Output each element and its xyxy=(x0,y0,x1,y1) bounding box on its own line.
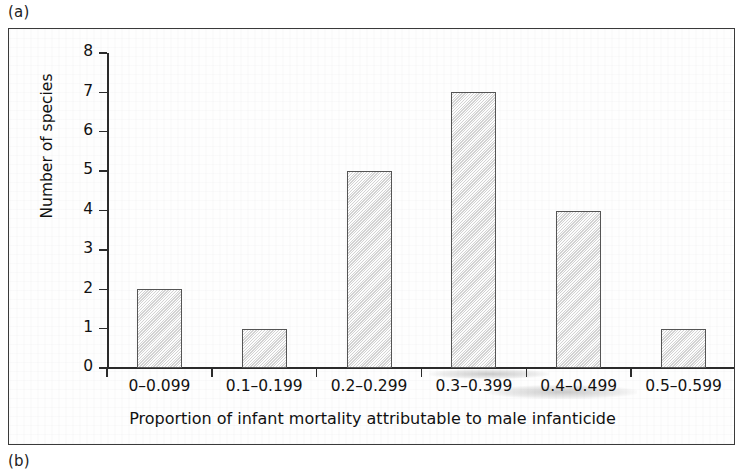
bar-5 xyxy=(661,329,706,368)
y-tick-label: 5 xyxy=(83,160,93,178)
y-tick-label: 8 xyxy=(83,42,93,60)
bar-1 xyxy=(242,329,287,368)
bar-4 xyxy=(556,211,601,369)
y-tick-7: 7 xyxy=(99,92,107,93)
figure-panel-a: Number of species 012345678 0–0.0990.1–0… xyxy=(8,28,735,445)
x-axis-title: Proportion of infant mortality attributa… xyxy=(9,409,735,428)
x-tick-0 xyxy=(106,368,107,377)
y-tick-6: 6 xyxy=(99,131,107,132)
y-tick-label: 2 xyxy=(83,279,93,297)
y-tick-4: 4 xyxy=(99,210,107,211)
x-tick-5 xyxy=(630,368,631,377)
y-tick-2: 2 xyxy=(99,289,107,290)
y-tick-5: 5 xyxy=(99,170,107,171)
bar-0 xyxy=(137,289,182,368)
x-tick-label-1: 0.1–0.199 xyxy=(212,377,317,395)
x-tick-label-2: 0.2–0.299 xyxy=(317,377,422,395)
y-axis-title: Number of species xyxy=(38,46,56,246)
bar-2 xyxy=(347,171,392,368)
x-tick-3 xyxy=(421,368,422,377)
y-tick-8: 8 xyxy=(99,52,107,53)
y-tick-label: 7 xyxy=(83,82,93,100)
x-tick-label-4: 0.4–0.499 xyxy=(526,377,631,395)
plot-area: 012345678 xyxy=(107,53,735,368)
y-tick-label: 6 xyxy=(83,121,93,139)
y-tick-1: 1 xyxy=(99,328,107,329)
bar-3 xyxy=(451,92,496,368)
x-tick-label-5: 0.5–0.599 xyxy=(631,377,735,395)
y-tick-label: 4 xyxy=(83,200,93,218)
y-tick-label: 1 xyxy=(83,318,93,336)
y-tick-label: 3 xyxy=(83,239,93,257)
panel-label-b: (b) xyxy=(8,452,30,470)
x-tick-label-3: 0.3–0.399 xyxy=(422,377,527,395)
panel-label-a: (a) xyxy=(8,3,30,21)
x-tick-2 xyxy=(316,368,317,377)
x-tick-4 xyxy=(526,368,527,377)
y-tick-3: 3 xyxy=(99,249,107,250)
y-axis-line xyxy=(107,53,109,368)
x-tick-1 xyxy=(211,368,212,377)
x-tick-label-0: 0–0.099 xyxy=(107,377,212,395)
y-tick-label: 0 xyxy=(83,357,93,375)
